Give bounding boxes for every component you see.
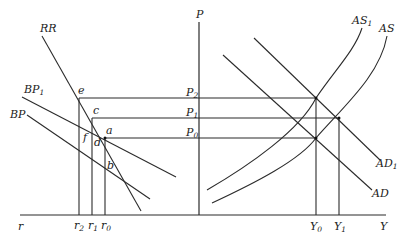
- point-f-label: f: [82, 131, 89, 144]
- as-curve: [212, 36, 387, 203]
- p1-label: P1: [185, 106, 198, 120]
- ad1-label: AD1: [375, 157, 398, 171]
- bp-curve: [27, 115, 150, 199]
- macro-diagram: P r Y RR BP1 BP AS1 AS AD1 AD P2 P1 P0 r…: [0, 0, 407, 239]
- r1-label: r1: [88, 219, 98, 233]
- p0-label: P0: [185, 126, 198, 140]
- point-e-label: e: [78, 84, 85, 97]
- point-d-label: d: [94, 136, 101, 149]
- point-b-label: b: [107, 159, 114, 172]
- point-c-label: c: [93, 104, 99, 117]
- bp1-label: BP1: [23, 83, 44, 97]
- price-axis-label: P: [195, 8, 204, 21]
- r-axis-label: r: [18, 220, 24, 233]
- r0-label: r0: [101, 219, 111, 233]
- p2-label: P2: [185, 86, 198, 100]
- point-a-label: a: [106, 124, 113, 137]
- y1-label: Y1: [334, 220, 346, 234]
- eq-p0-dot: [315, 137, 318, 140]
- rr-label: RR: [39, 22, 57, 35]
- as1-label: AS1: [351, 14, 372, 28]
- bp-label: BP: [9, 108, 26, 121]
- y0-label: Y0: [310, 220, 322, 234]
- y-axis-label: Y: [380, 220, 389, 233]
- ad-label: AD: [371, 187, 389, 200]
- r2-label: r2: [74, 219, 84, 233]
- as-label: AS: [378, 22, 395, 35]
- eq-p1-dot: [338, 117, 341, 120]
- eq-p2-dot: [315, 97, 318, 100]
